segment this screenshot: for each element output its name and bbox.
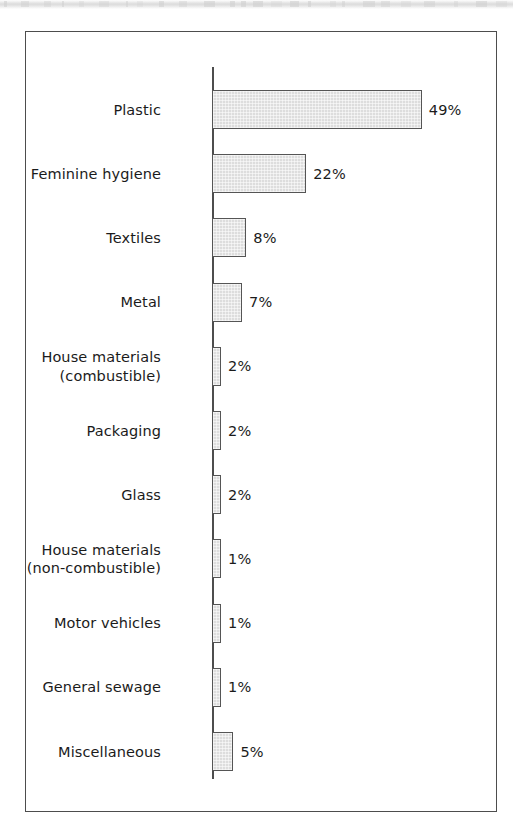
plot-area: Plastic49%Feminine hygiene22%Textiles8%M… bbox=[26, 32, 496, 811]
bar-category-label: Glass bbox=[0, 475, 161, 515]
scan-speckle bbox=[137, 1, 143, 7]
scan-speckle bbox=[330, 1, 336, 7]
scan-speckle bbox=[308, 1, 311, 7]
bar-value-label: 1% bbox=[228, 604, 251, 643]
scan-speckle bbox=[271, 1, 282, 7]
bar-category-label-line: Packaging bbox=[86, 422, 161, 441]
bar-rect bbox=[212, 218, 246, 257]
scan-speckle bbox=[253, 1, 263, 7]
bar-category-label-line: General sewage bbox=[43, 678, 162, 697]
scan-speckle bbox=[342, 1, 345, 7]
bar-value-label: 2% bbox=[228, 411, 251, 450]
bar-category-label-line: Plastic bbox=[113, 101, 161, 120]
bar-value-label: 1% bbox=[228, 539, 251, 578]
bar-rect bbox=[212, 539, 221, 578]
bar-category-label: Packaging bbox=[0, 411, 161, 451]
bar-row: Motor vehicles1% bbox=[26, 604, 496, 644]
scan-speckle bbox=[401, 1, 411, 7]
bar-category-label: Textiles bbox=[0, 218, 161, 258]
bar-value-label: 22% bbox=[313, 154, 346, 193]
bar-rect bbox=[212, 283, 242, 322]
bar-rect bbox=[212, 411, 221, 450]
scan-speckle bbox=[496, 1, 507, 7]
scan-speckle bbox=[363, 1, 375, 7]
bar-category-label-line: Glass bbox=[121, 486, 161, 505]
bar-category-label-line: House materials bbox=[41, 541, 161, 560]
bar-row: Feminine hygiene22% bbox=[26, 154, 496, 194]
bar-category-label-line: Motor vehicles bbox=[54, 614, 161, 633]
bar-value-label: 7% bbox=[249, 283, 272, 322]
bar-rect bbox=[212, 668, 221, 707]
bar-category-label-line: Textiles bbox=[106, 229, 161, 248]
bar-value-label: 49% bbox=[429, 90, 462, 129]
bar-category-label: Plastic bbox=[0, 90, 161, 130]
scan-speckle bbox=[21, 1, 29, 7]
scan-speckle bbox=[290, 1, 299, 7]
bar-row: General sewage1% bbox=[26, 668, 496, 708]
bar-category-label-line: Metal bbox=[120, 293, 161, 312]
scan-speckle bbox=[230, 1, 235, 7]
scan-speckle bbox=[79, 1, 84, 7]
bar-row: House materials(non-combustible)1% bbox=[26, 539, 496, 579]
bar-category-label: House materials(combustible) bbox=[0, 347, 161, 387]
bar-value-label: 2% bbox=[228, 475, 251, 514]
bar-row: Metal7% bbox=[26, 283, 496, 323]
chart-frame: Plastic49%Feminine hygiene22%Textiles8%M… bbox=[25, 31, 497, 812]
bar-row: Textiles8% bbox=[26, 218, 496, 258]
scan-speckle bbox=[4, 1, 7, 7]
scan-speckle bbox=[62, 1, 64, 7]
bar-row: Glass2% bbox=[26, 475, 496, 515]
bar-value-label: 5% bbox=[240, 732, 263, 771]
scan-speckle bbox=[44, 1, 51, 7]
bar-category-label: House materials(non-combustible) bbox=[0, 539, 161, 579]
bar-rect bbox=[212, 154, 306, 193]
scan-speckle bbox=[424, 1, 435, 7]
scan-speckle bbox=[179, 1, 187, 7]
bar-category-label: Feminine hygiene bbox=[0, 154, 161, 194]
bar-rect bbox=[212, 604, 221, 643]
bar-value-label: 1% bbox=[228, 668, 251, 707]
bar-rect bbox=[212, 732, 233, 771]
bar-rect bbox=[212, 90, 422, 129]
scan-speckle bbox=[241, 1, 246, 7]
bar-category-label: General sewage bbox=[0, 668, 161, 708]
bar-rect bbox=[212, 475, 221, 514]
scan-speckle bbox=[381, 1, 390, 7]
bar-row: Miscellaneous5% bbox=[26, 732, 496, 772]
bar-category-label-line: (combustible) bbox=[60, 367, 161, 386]
scan-speckle bbox=[476, 1, 487, 7]
bar-row: Plastic49% bbox=[26, 90, 496, 130]
bar-category-label: Motor vehicles bbox=[0, 604, 161, 644]
scan-speckle bbox=[126, 1, 128, 7]
scan-artifact-band bbox=[0, 0, 513, 9]
bar-row: House materials(combustible)2% bbox=[26, 347, 496, 387]
bar-category-label-line: Feminine hygiene bbox=[31, 165, 161, 184]
bar-row: Packaging2% bbox=[26, 411, 496, 451]
scan-speckle bbox=[159, 1, 164, 7]
bar-category-label: Metal bbox=[0, 283, 161, 323]
bar-rect bbox=[212, 347, 221, 386]
scan-speckle bbox=[99, 1, 109, 7]
bar-category-label-line: (non-combustible) bbox=[27, 559, 161, 578]
bar-category-label: Miscellaneous bbox=[0, 732, 161, 772]
scan-speckle bbox=[454, 1, 458, 7]
bar-value-label: 2% bbox=[228, 347, 251, 386]
bar-category-label-line: Miscellaneous bbox=[58, 743, 161, 762]
bar-category-label-line: House materials bbox=[41, 348, 161, 367]
bar-value-label: 8% bbox=[253, 218, 276, 257]
scan-speckle bbox=[204, 1, 215, 7]
